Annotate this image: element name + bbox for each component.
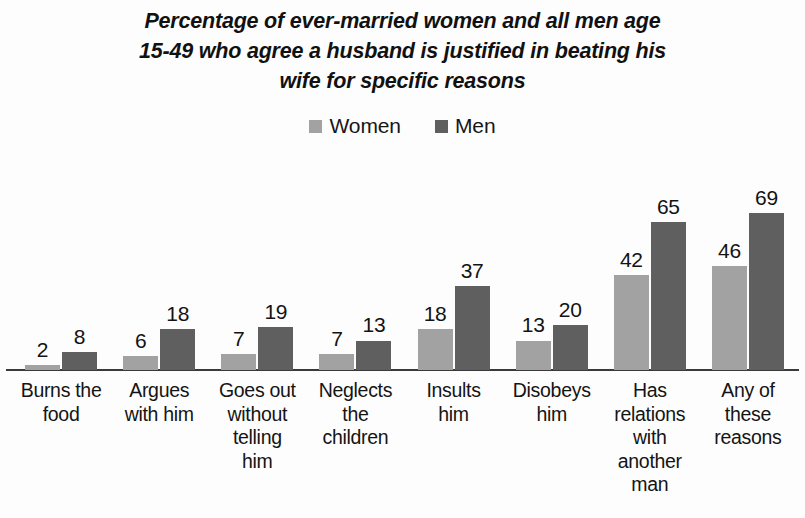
category-label-line: him [503,403,601,427]
category-label-line: reasons [699,426,797,450]
x-axis-category-label: Hasrelationswithanotherman [601,379,699,497]
category-label-line: telling [208,426,306,450]
category-label-line: Any of [699,379,797,403]
category-label-line: him [208,450,306,474]
bar-women[interactable] [221,354,256,370]
bar-group-bars: 4265 [601,0,699,370]
bar-group-bars: 4669 [699,0,797,370]
bar-value-label: 19 [252,300,299,324]
category-label-line: Disobeys [503,379,601,403]
x-axis-category-label: Burns thefood [12,379,110,426]
x-axis-category-label: Argueswith him [110,379,208,426]
category-label-line: relations [601,403,699,427]
bar-chart: Percentage of ever-married women and all… [0,0,805,518]
category-label-line: Argues [110,379,208,403]
x-axis-category-label: Any ofthesereasons [699,379,797,450]
bar-group-bars: 1837 [405,0,503,370]
category-label-line: Neglects [306,379,404,403]
bar-women[interactable] [712,266,747,370]
bar-group-bars: 719 [208,0,306,370]
bar-group-bars: 28 [12,0,110,370]
bar-men[interactable] [651,222,686,370]
bar-value-label: 6 [117,329,164,353]
bar-value-label: 18 [154,302,201,326]
category-label-line: Goes out [208,379,306,403]
category-label-line: food [12,403,110,427]
category-label-line: children [306,426,404,450]
bar-men[interactable] [553,325,588,370]
bar-value-label: 13 [350,313,397,337]
plot-area: 28Burns thefood618Argueswith him719Goes … [0,0,805,518]
x-axis-category-label: Insultshim [405,379,503,426]
bar-value-label: 7 [215,327,262,351]
bar-group-bars: 618 [110,0,208,370]
category-label-line: Burns the [12,379,110,403]
bar-men[interactable] [160,329,195,370]
bar-group-bars: 1320 [503,0,601,370]
bar-men[interactable] [62,352,97,370]
bar-value-label: 65 [645,195,692,219]
category-label-line: with him [110,403,208,427]
category-label-line: with [601,426,699,450]
bar-men[interactable] [455,286,490,370]
bar-group: 1320Disobeyshim [503,0,601,518]
bar-men[interactable] [749,213,784,370]
bar-group-bars: 713 [306,0,404,370]
bar-women[interactable] [123,356,158,370]
bar-value-label: 69 [743,186,790,210]
bar-women[interactable] [25,365,60,370]
bar-men[interactable] [258,327,293,370]
bar-value-label: 8 [56,325,103,349]
bar-group: 28Burns thefood [12,0,110,518]
bar-value-label: 20 [547,298,594,322]
bar-value-label: 42 [608,248,655,272]
bar-group: 713Neglectsthechildren [306,0,404,518]
bar-value-label: 18 [412,302,459,326]
category-label-line: him [405,403,503,427]
bar-women[interactable] [319,354,354,370]
bar-value-label: 37 [449,259,496,283]
x-axis-category-label: Disobeyshim [503,379,601,426]
category-label-line: these [699,403,797,427]
bar-group: 618Argueswith him [110,0,208,518]
category-label-line: another [601,450,699,474]
category-label-line: Insults [405,379,503,403]
bar-group: 4265Hasrelationswithanotherman [601,0,699,518]
bar-group: 4669Any ofthesereasons [699,0,797,518]
category-label-line: man [601,473,699,497]
bar-men[interactable] [356,341,391,371]
category-label-line: without [208,403,306,427]
bar-women[interactable] [614,275,649,370]
category-label-line: Has [601,379,699,403]
bar-women[interactable] [418,329,453,370]
bar-value-label: 46 [706,239,753,263]
bar-women[interactable] [516,341,551,371]
x-axis-category-label: Neglectsthechildren [306,379,404,450]
category-label-line: the [306,403,404,427]
x-axis-category-label: Goes outwithouttellinghim [208,379,306,473]
bar-group: 719Goes outwithouttellinghim [208,0,306,518]
bar-group: 1837Insultshim [405,0,503,518]
